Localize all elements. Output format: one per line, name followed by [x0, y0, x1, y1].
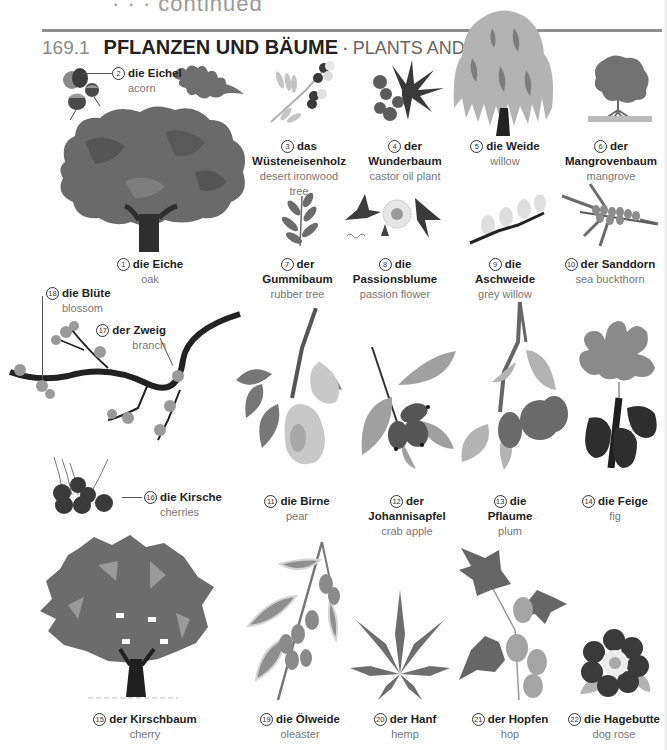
english-term: hop: [470, 727, 550, 742]
english-term: castor oil plant: [355, 169, 455, 184]
english-term: passion flower: [350, 287, 440, 302]
german-term: der Gummibaum: [262, 258, 332, 285]
mangrove-tree-icon: [588, 52, 652, 124]
number-badge: 17: [96, 324, 109, 337]
castor-plant-icon: [372, 60, 447, 125]
german-term: der Mangrovenbaum: [565, 140, 657, 167]
title-separator: ·: [342, 36, 349, 58]
label-branch: 17der Zweig branch: [96, 323, 166, 353]
number-badge: 6: [594, 140, 607, 153]
english-term: dog rose: [566, 727, 662, 742]
label-rubber-tree: 7der Gummibaum rubber tree: [245, 257, 350, 302]
ironwood-branch-icon: [266, 60, 341, 130]
german-term: der Sanddorn: [581, 258, 656, 270]
english-term: acorn: [112, 81, 182, 96]
section-number: 169.1: [42, 37, 90, 58]
english-term: mangrove: [556, 169, 666, 184]
label-grey-willow: 9die Aschweide grey willow: [460, 257, 550, 302]
number-badge: 7: [281, 258, 294, 271]
number-badge: 10: [565, 258, 578, 271]
willow-tree-icon: [452, 8, 557, 138]
english-term: oak: [110, 272, 190, 287]
title-german: PFLANZEN UND BÄUME: [104, 36, 338, 58]
number-badge: 15: [93, 713, 106, 726]
grey-willow-twig-icon: [468, 195, 548, 245]
number-badge: 16: [144, 491, 157, 504]
clipped-top-header: · · · continued: [112, 0, 263, 17]
number-badge: 9: [489, 258, 502, 271]
english-term: crab apple: [352, 524, 462, 539]
german-term: der Zweig: [112, 324, 166, 336]
label-ironwood: 3das Wüsteneisenholz desert ironwood tre…: [240, 139, 358, 199]
german-term: die Birne: [280, 495, 329, 507]
label-cherry-tree: 15der Kirschbaum cherry: [90, 712, 200, 742]
label-passion-flower: 8die Passionsblume passion flower: [350, 257, 440, 302]
oak-leaf-icon: [172, 60, 247, 105]
label-crab-apple: 12der Johannisapfel crab apple: [352, 494, 462, 539]
german-term: die Kirsche: [160, 491, 222, 503]
label-oleaster: 19die Ölweide oleaster: [255, 712, 345, 742]
number-badge: 13: [494, 495, 507, 508]
number-badge: 1: [117, 258, 130, 271]
label-hop: 21der Hopfen hop: [470, 712, 550, 742]
number-badge: 18: [46, 287, 59, 300]
leader-line-blossom: [42, 296, 43, 380]
german-term: die Feige: [598, 495, 648, 507]
german-term: die Hagebutte: [584, 713, 660, 725]
number-badge: 3: [281, 140, 294, 153]
german-term: die: [395, 258, 412, 270]
label-willow: 5die Weide willow: [465, 139, 545, 169]
leader-line-cherries: [122, 497, 142, 498]
cherry-tree-icon: [38, 535, 216, 700]
english-term-line2: tree: [240, 184, 358, 199]
number-badge: 2: [112, 67, 125, 80]
number-badge: 4: [388, 140, 401, 153]
rubber-tree-leaves-icon: [280, 192, 320, 247]
english-term: fig: [575, 509, 655, 524]
oak-tree-icon: [55, 102, 250, 254]
leader-line-acorn: [82, 73, 112, 74]
german-term: das Wüsteneisenholz: [252, 140, 346, 167]
number-badge: 14: [582, 495, 595, 508]
label-pear: 11die Birne pear: [262, 494, 332, 524]
plum-icon: [460, 302, 570, 472]
english-term: grey willow: [460, 287, 550, 302]
label-plum: 13die Pflaume plum: [470, 494, 550, 539]
english-term: sea buckthorn: [560, 272, 660, 287]
label-hemp: 20der Hanf hemp: [370, 712, 440, 742]
english-term: blossom: [46, 301, 111, 316]
english-term: pear: [262, 509, 332, 524]
german-term: der Hanf: [390, 713, 437, 725]
english-term: willow: [465, 154, 545, 169]
label-sea-buckthorn: 10der Sanddorn sea buckthorn: [560, 257, 660, 287]
number-badge: 22: [568, 713, 581, 726]
number-badge: 8: [379, 258, 392, 271]
dog-rose-icon: [578, 628, 653, 698]
german-term: die Eichel: [128, 67, 182, 79]
german-term: die Aschweide: [475, 258, 535, 285]
label-oak: 1die Eiche oak: [110, 257, 190, 287]
hemp-leaf-icon: [350, 588, 450, 703]
fig-icon: [575, 318, 665, 468]
hop-icon: [455, 540, 570, 705]
english-term: oleaster: [255, 727, 345, 742]
number-badge: 19: [260, 713, 273, 726]
label-fig: 14die Feige fig: [575, 494, 655, 524]
number-badge: 20: [374, 713, 387, 726]
crab-apple-icon: [358, 345, 458, 470]
label-cherries: 16die Kirsche cherries: [144, 490, 222, 520]
german-term-line2: Passionsblume: [350, 272, 440, 287]
english-term: cherry: [90, 727, 200, 742]
label-dog-rose: 22die Hagebutte dog rose: [566, 712, 662, 742]
number-badge: 11: [264, 495, 277, 508]
cherries-icon: [50, 455, 120, 515]
english-term: branch: [96, 338, 166, 353]
label-mangrove: 6der Mangrovenbaum mangrove: [556, 139, 666, 184]
number-badge: 5: [470, 140, 483, 153]
german-term: die Blüte: [62, 287, 111, 299]
english-term: hemp: [370, 727, 440, 742]
pear-icon: [232, 308, 352, 468]
passion-flower-icon: [345, 190, 445, 245]
german-term: der Wunderbaum: [368, 140, 441, 167]
english-term: desert ironwood: [240, 169, 358, 184]
